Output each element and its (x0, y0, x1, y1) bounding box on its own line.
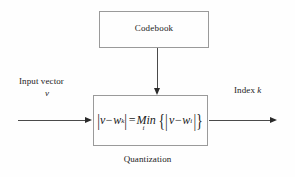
codebook-to-quantization-arrow-line (157, 48, 158, 89)
output-arrow-line (209, 120, 272, 121)
input-arrow-line (18, 120, 86, 121)
index-symbol: k (257, 85, 261, 95)
input-vector-label: Input vector (19, 76, 64, 86)
formula-w: w (113, 113, 121, 128)
index-label: Index k (234, 85, 261, 95)
quantization-formula: |v−wk|=Mini{|v−wi|} (93, 95, 208, 146)
index-label-text: Index (234, 85, 257, 95)
formula-open-bar: | (97, 112, 100, 129)
input-vector-symbol: v (45, 88, 49, 98)
quantization-caption: Quantization (0, 154, 295, 164)
formula-minus2: − (174, 113, 182, 128)
codebook-label: Codebook (100, 23, 208, 33)
formula-w2: w (182, 113, 190, 128)
arrow-right-icon (85, 117, 92, 123)
codebook-box: Codebook (99, 11, 209, 48)
formula-minus: − (105, 113, 113, 128)
diagram-canvas: Codebook Input vector v |v−wk|=Mini{|v−w… (0, 0, 295, 177)
arrow-right-icon (270, 117, 277, 123)
arrow-down-icon (154, 88, 160, 95)
formula-min-operator: Mini (136, 113, 156, 128)
formula-open-brace-bar: {| (158, 112, 167, 130)
formula-close-brace-bar: |} (194, 112, 203, 130)
formula-close-bar: | (125, 112, 128, 129)
formula-min-index: i (142, 124, 144, 132)
formula-sub-i: i (190, 117, 192, 125)
formula-min-text: Min (136, 113, 155, 127)
